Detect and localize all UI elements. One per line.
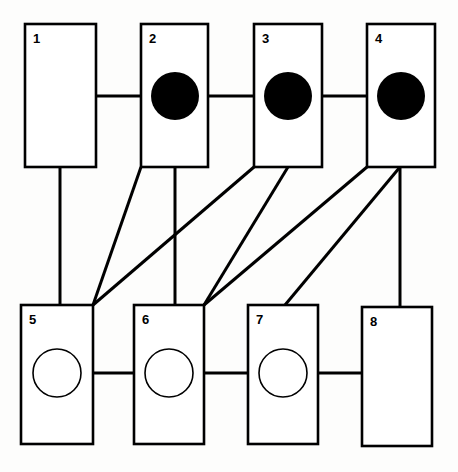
node-label-6: 6 [142,312,149,327]
filled-circle-icon-3 [264,72,312,120]
node-label-5: 5 [29,312,36,327]
filled-circle-icon-4 [377,72,425,120]
node-box-5[interactable]: 5 [21,305,93,444]
node-box-6[interactable]: 6 [134,305,204,444]
node-box-7[interactable]: 7 [248,305,318,444]
edge-3-to-6 [204,167,288,305]
open-circle-icon-7 [259,349,307,397]
node-label-4: 4 [375,31,383,46]
node-box-2[interactable]: 2 [141,24,208,167]
nodes-layer: 12345678 [21,24,435,446]
node-label-1: 1 [33,31,40,46]
node-box-3[interactable]: 3 [254,24,322,167]
node-box-1[interactable]: 1 [25,24,96,167]
diagram-svg: 12345678 [0,0,458,472]
node-label-8: 8 [370,314,377,329]
node-label-2: 2 [149,31,156,46]
diagram-canvas: 12345678 [0,0,458,472]
open-circle-icon-5 [33,349,81,397]
filled-circle-icon-2 [151,72,199,120]
node-box-4[interactable]: 4 [367,24,435,167]
node-box-8[interactable]: 8 [362,307,432,446]
node-label-3: 3 [262,31,269,46]
node-label-7: 7 [256,312,263,327]
edges-layer [60,96,400,373]
open-circle-icon-6 [145,349,193,397]
